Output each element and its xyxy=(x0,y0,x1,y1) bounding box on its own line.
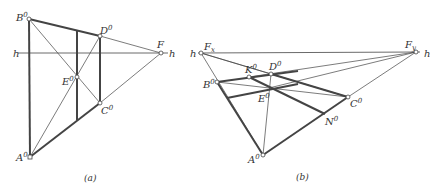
point-k-marker xyxy=(247,75,251,79)
line-c-f xyxy=(100,53,161,103)
point-f-marker xyxy=(159,51,163,55)
label-e-a: E0 xyxy=(61,75,74,87)
label-c-b: C0 xyxy=(350,97,363,109)
horizon-line-b xyxy=(198,52,420,53)
label-d-b: D0 xyxy=(268,60,282,72)
point-a-marker xyxy=(28,155,32,159)
line-fy-c xyxy=(348,52,416,97)
figure-b xyxy=(198,50,420,157)
point-a-marker xyxy=(261,153,265,157)
label-fy: Fy xyxy=(404,39,417,52)
point-d-marker xyxy=(269,72,273,76)
label-a-a: A0 xyxy=(15,151,28,163)
diagonal-b-c xyxy=(29,19,100,103)
horizon-label-left-b: h xyxy=(190,48,196,59)
label-b-b: B0 xyxy=(202,78,215,90)
label-k: K0 xyxy=(244,63,257,75)
edge-b-d xyxy=(29,19,100,36)
diagonal-a-d xyxy=(30,36,100,157)
label-n: N0 xyxy=(324,115,339,127)
diagonal-b-c xyxy=(217,82,348,97)
point-fx-marker xyxy=(199,51,203,55)
figure-a-caption: (a) xyxy=(84,173,97,183)
horizon-label-right-b: h xyxy=(424,48,430,59)
figure-b-caption: (b) xyxy=(296,172,309,182)
label-c-a: C0 xyxy=(101,104,114,116)
label-f-a: F xyxy=(156,39,165,50)
label-d-a: D0 xyxy=(99,24,113,36)
horizon-label-right-a: h xyxy=(169,48,175,59)
horizon-label-left-a: h xyxy=(13,48,19,59)
label-fx: Fx xyxy=(203,41,215,54)
edge-b-a xyxy=(29,19,30,157)
point-e-marker xyxy=(75,75,79,79)
perspective-diagram: h h B0 D0 F E0 C0 A0 (a) h xyxy=(0,0,439,196)
figure-a xyxy=(18,17,168,159)
label-a-b: A0 xyxy=(247,153,260,165)
edge-a-c xyxy=(30,103,100,157)
label-b-a: B0 xyxy=(15,11,28,23)
line-d-f xyxy=(100,36,161,53)
line-fy-e xyxy=(269,52,416,88)
edge-a-c xyxy=(263,97,348,155)
point-b-marker xyxy=(215,80,219,84)
